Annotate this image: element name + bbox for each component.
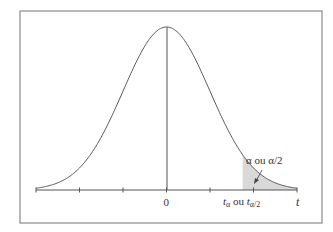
figure-frame bbox=[20, 11, 322, 223]
alpha-annotation: α ou α/2 bbox=[246, 154, 283, 166]
t-distribution-figure: α ou α/2 0 t tα ou tα/2 bbox=[0, 0, 333, 232]
zero-tick-label: 0 bbox=[164, 196, 170, 208]
t-alpha2-sub: α/2 bbox=[250, 200, 260, 209]
ou-text: ou bbox=[230, 195, 247, 207]
